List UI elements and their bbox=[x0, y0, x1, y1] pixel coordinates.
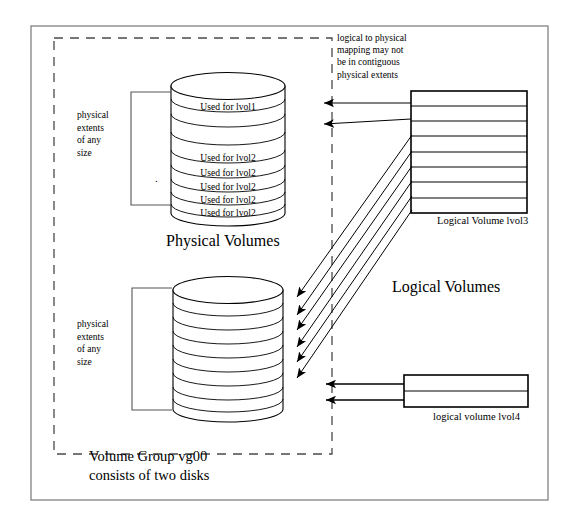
vg-line-1: Volume Group vg00 bbox=[89, 448, 207, 464]
annotation-line-2: mapping may not bbox=[337, 45, 404, 55]
logical-volume-lvol4-box bbox=[404, 375, 528, 407]
annotation-line-3: be in contiguous bbox=[337, 57, 400, 67]
mapping-arrows-lvol4-to-disk2 bbox=[326, 384, 404, 400]
extent-label-lvol2-a: Used for lvol2 bbox=[173, 152, 283, 163]
physical-extents-label-bottom: physicalextentsof anysize bbox=[77, 318, 109, 368]
physical-extents-label-top: physicalextentsof anysize bbox=[77, 109, 109, 159]
pe-bottom-line-2: extents bbox=[77, 332, 104, 342]
extent-label-lvol2-c: Used for lvol2 bbox=[173, 181, 283, 192]
extent-label-lvol1: Used for lvol1 bbox=[173, 101, 283, 112]
annotation-line-1: logical to physical bbox=[337, 33, 407, 43]
caption-volume-group: Volume Group vg00consists of two disks bbox=[89, 447, 209, 485]
caption-logical-volume-lvol3: Logical Volume lvol3 bbox=[437, 215, 528, 226]
annotation-line-4: physical extents bbox=[337, 70, 398, 80]
pe-bottom-line-1: physical bbox=[77, 319, 109, 329]
pe-top-line-2: extents bbox=[77, 123, 104, 133]
annotation-logical-to-physical: logical to physicalmapping may notbe in … bbox=[337, 32, 407, 81]
extent-label-lvol2-d: Used for lvol2 bbox=[173, 194, 283, 205]
mapping-arrows-lvol3-to-disk2 bbox=[297, 135, 412, 378]
physical-extents-bracket-bottom bbox=[132, 288, 172, 410]
pe-top-line-1: physical bbox=[77, 110, 109, 120]
pe-top-line-3: of any bbox=[77, 135, 101, 145]
pe-top-line-4: size bbox=[77, 148, 92, 158]
mapping-arrows-lvol3-to-disk1 bbox=[324, 103, 411, 124]
vg-line-2: consists of two disks bbox=[89, 467, 209, 483]
caption-logical-volumes: Logical Volumes bbox=[392, 278, 500, 296]
physical-volume-disk-2 bbox=[173, 277, 283, 423]
physical-extents-bracket-top bbox=[131, 92, 171, 205]
logical-volume-lvol3-box bbox=[411, 91, 527, 213]
extent-label-lvol2-e: Used for lvol2 bbox=[173, 207, 283, 218]
extent-label-lvol2-b: Used for lvol2 bbox=[173, 167, 283, 178]
pe-bottom-line-4: size bbox=[77, 357, 92, 367]
lvm-diagram-canvas: logical to physicalmapping may notbe in … bbox=[0, 0, 579, 529]
pe-bottom-line-3: of any bbox=[77, 344, 101, 354]
caption-physical-volumes: Physical Volumes bbox=[166, 232, 280, 250]
stray-dot-mark: . bbox=[155, 172, 158, 184]
caption-logical-volume-lvol4: logical volume lvol4 bbox=[433, 411, 520, 422]
